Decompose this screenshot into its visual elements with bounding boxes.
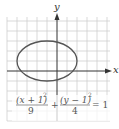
eq-numerator-2: (y − 1) bbox=[60, 95, 91, 105]
y-axis-arrow bbox=[55, 13, 60, 20]
eq-exponent-1: 2 bbox=[43, 91, 47, 98]
x-axis-arrow bbox=[105, 69, 112, 74]
eq-denominator-1: 9 bbox=[28, 106, 34, 116]
eq-exponent-2: 2 bbox=[88, 91, 92, 98]
eq-rhs: = 1 bbox=[92, 100, 108, 110]
y-axis-label: y bbox=[54, 1, 60, 12]
eq-denominator-2: 4 bbox=[72, 106, 78, 116]
x-axis-label: x bbox=[113, 64, 119, 75]
eq-plus: + bbox=[51, 100, 59, 110]
